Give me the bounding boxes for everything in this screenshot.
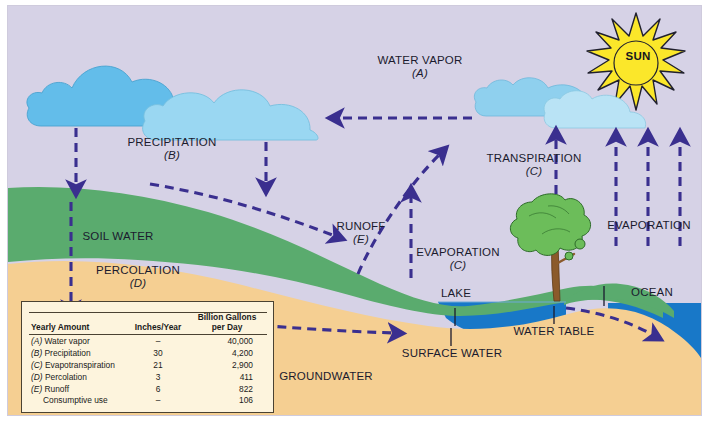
- table-row: Consumptive use – 106: [29, 395, 267, 407]
- table-header-row: Yearly Amount Inches/Year Billion Gallon…: [29, 313, 267, 335]
- row-label: (D) Percolation: [29, 371, 129, 383]
- row-label: Consumptive use: [29, 395, 129, 407]
- header-line-2: per Day: [212, 322, 243, 332]
- water-cycle-diagram: WATER VAPOR (A) PRECIPITATION (B) SOIL W…: [0, 0, 709, 423]
- row-name: Precipitation: [45, 348, 91, 358]
- label-lake: LAKE: [427, 287, 485, 300]
- label-soil-water: SOIL WATER: [63, 230, 173, 243]
- row-gallons: 822: [187, 383, 267, 395]
- row-inches: 30: [129, 347, 187, 359]
- row-inches: –: [129, 395, 187, 407]
- row-inches: –: [129, 335, 187, 347]
- row-key: (C): [31, 360, 43, 370]
- label-transpiration: TRANSPIRATION (C): [470, 152, 598, 178]
- row-inches: 6: [129, 383, 187, 395]
- row-gallons: 2,900: [187, 359, 267, 371]
- label-water-table: WATER TABLE: [502, 325, 606, 338]
- label-evaporation-mid: EVAPORATION (C): [398, 246, 518, 272]
- label-surface-water: SURFACE WATER: [390, 347, 514, 360]
- label-precipitation: PRECIPITATION (B): [102, 136, 242, 162]
- label-ocean: OCEAN: [620, 286, 684, 299]
- row-name: Consumptive use: [43, 395, 108, 405]
- table-row: (E) Runoff 6 822: [29, 383, 267, 395]
- row-label: (C) Evapotranspiration: [29, 359, 129, 371]
- row-key: (D): [31, 372, 43, 382]
- row-gallons: 40,000: [187, 335, 267, 347]
- row-key: (A): [31, 336, 42, 346]
- row-name: Evapotranspiration: [45, 360, 115, 370]
- row-key: (E): [31, 384, 42, 394]
- row-gallons: 106: [187, 395, 267, 407]
- table-row: (B) Precipitation 30 4,200: [29, 347, 267, 359]
- row-name: Water vapor: [45, 336, 90, 346]
- row-name: Runoff: [45, 384, 70, 394]
- label-runoff: RUNOFF (E): [321, 220, 401, 246]
- header-billion-gallons-per-day: Billion Gallons per Day: [187, 313, 267, 335]
- table-row: (A) Water vapor – 40,000: [29, 335, 267, 347]
- header-line-1: Billion Gallons: [198, 312, 257, 322]
- water-budget-table: Yearly Amount Inches/Year Billion Gallon…: [21, 301, 274, 413]
- row-gallons: 4,200: [187, 347, 267, 359]
- label-water-vapor: WATER VAPOR (A): [355, 54, 485, 80]
- row-label: (B) Precipitation: [29, 347, 129, 359]
- table-row: (C) Evapotranspiration 21 2,900: [29, 359, 267, 371]
- table-body: (A) Water vapor – 40,000 (B) Precipitati…: [29, 335, 267, 407]
- row-inches: 21: [129, 359, 187, 371]
- row-label: (E) Runoff: [29, 383, 129, 395]
- row-label: (A) Water vapor: [29, 335, 129, 347]
- row-gallons: 411: [187, 371, 267, 383]
- diagram-frame: WATER VAPOR (A) PRECIPITATION (B) SOIL W…: [8, 6, 701, 415]
- row-inches: 3: [129, 371, 187, 383]
- table-row: (D) Percolation 3 411: [29, 371, 267, 383]
- table-head: Yearly Amount Inches/Year Billion Gallon…: [29, 306, 267, 335]
- row-name: Percolation: [45, 372, 87, 382]
- table: Yearly Amount Inches/Year Billion Gallon…: [29, 306, 267, 407]
- label-percolation: PERCOLATION (D): [78, 264, 198, 290]
- label-evaporation-right: EVAPORATION: [594, 219, 701, 232]
- label-sun: SUN: [618, 50, 658, 63]
- header-yearly-amount: Yearly Amount: [29, 313, 129, 335]
- header-inches-per-year: Inches/Year: [129, 313, 187, 335]
- label-groundwater: GROUNDWATER: [266, 370, 386, 383]
- row-key: (B): [31, 348, 42, 358]
